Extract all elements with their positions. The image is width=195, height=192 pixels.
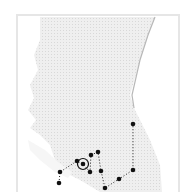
waypoint-marker[interactable] (89, 153, 94, 158)
map-canvas[interactable] (0, 0, 195, 192)
current-location-marker[interactable] (81, 162, 86, 167)
waypoint-marker[interactable] (103, 186, 108, 191)
waypoint-marker[interactable] (131, 122, 136, 127)
waypoint-marker[interactable] (96, 150, 101, 155)
waypoint-marker[interactable] (57, 181, 62, 186)
waypoint-marker[interactable] (75, 159, 80, 164)
waypoint-marker[interactable] (58, 170, 63, 175)
waypoint-marker[interactable] (131, 168, 136, 173)
waypoint-marker[interactable] (99, 169, 104, 174)
waypoint-marker[interactable] (88, 170, 93, 175)
waypoint-marker[interactable] (117, 177, 122, 182)
